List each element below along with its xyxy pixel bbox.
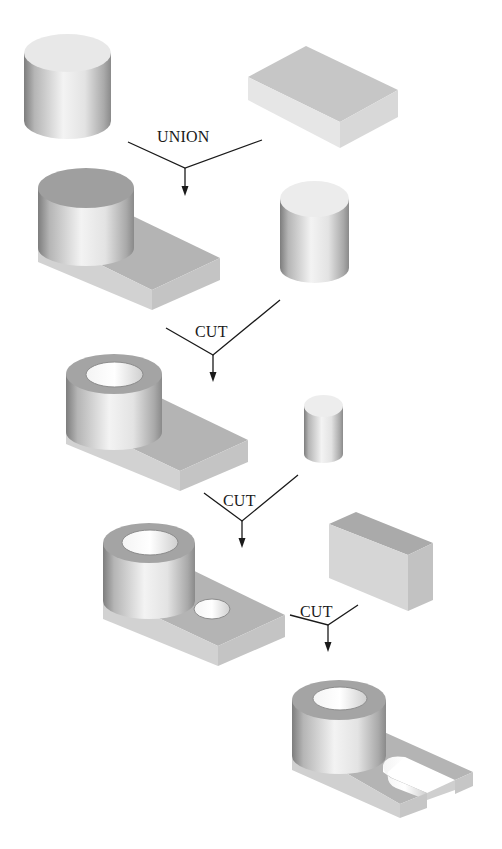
union-result: [38, 168, 220, 310]
arrow-down-icon: [182, 186, 189, 196]
cut-label-1: CUT: [195, 324, 228, 340]
input-cylinder-2: [280, 181, 349, 283]
input-block-1: [248, 46, 398, 148]
cut-label-3: CUT: [300, 604, 333, 620]
cut1-result: [66, 354, 248, 491]
cut-operator-2: [204, 475, 298, 548]
final-slotted-bracket: [292, 680, 473, 818]
csg-diagram: [0, 0, 502, 849]
arrow-down-icon: [210, 372, 217, 382]
union-operator: [128, 140, 262, 196]
union-label: UNION: [157, 129, 210, 145]
arrow-down-icon: [239, 538, 246, 548]
arrow-down-icon: [325, 642, 332, 652]
input-cylinder-1: [24, 34, 111, 139]
cut2-result: [103, 523, 285, 666]
input-small-cylinder: [304, 395, 343, 463]
input-block-2: [329, 512, 433, 611]
cut-operator-1: [166, 300, 280, 382]
cut-label-2: CUT: [223, 493, 256, 509]
